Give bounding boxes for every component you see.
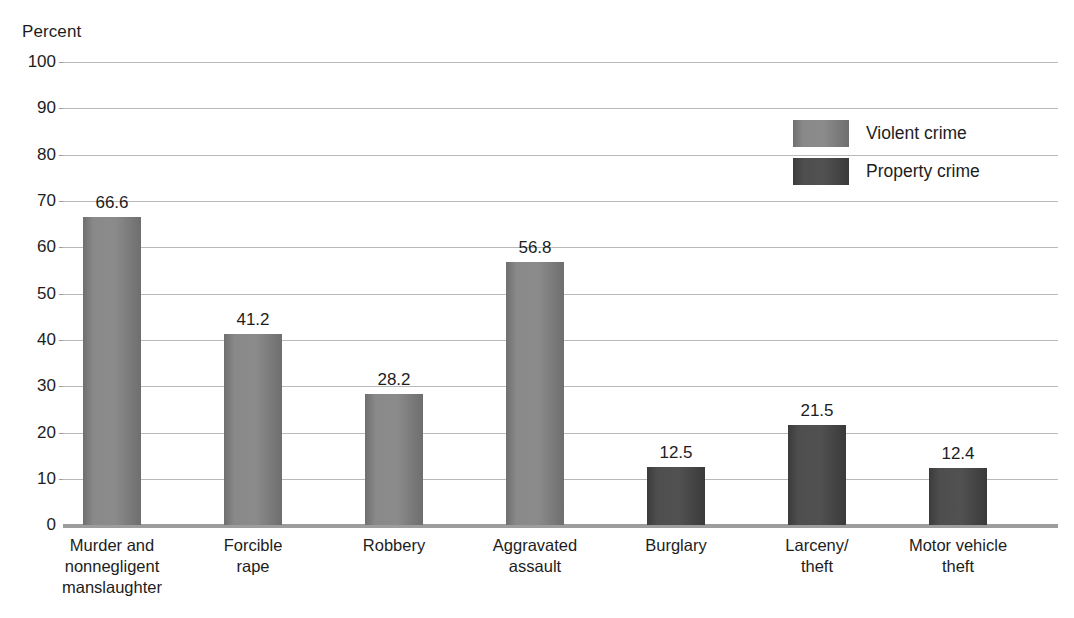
y-tick-label: 20 (0, 423, 56, 443)
y-tick-label: 50 (0, 284, 56, 304)
bar-burglary[interactable] (647, 467, 705, 525)
category-label-aggravated-assault: Aggravated assault (460, 535, 610, 577)
bar-chart: Percent 100 90 80 70 60 50 40 30 20 10 0 (0, 0, 1074, 618)
category-label-line: Forcible (178, 535, 328, 556)
y-tick-label: 60 (0, 237, 56, 257)
bar-value-label: 56.8 (475, 238, 595, 258)
bar-value-label: 66.6 (52, 193, 172, 213)
category-label-line: rape (178, 556, 328, 577)
legend-label: Property crime (866, 161, 980, 182)
bar-robbery[interactable] (365, 394, 423, 525)
category-label-murder-and-nonnegligent-manslaughter: Murder and nonnegligent manslaughter (37, 535, 187, 598)
category-label-line: Robbery (319, 535, 469, 556)
category-label-line: Burglary (601, 535, 751, 556)
y-tick-label: 0 (0, 515, 56, 535)
y-tick-label: 70 (0, 191, 56, 211)
category-label-robbery: Robbery (319, 535, 469, 556)
category-label-burglary: Burglary (601, 535, 751, 556)
category-label-line: nonnegligent (37, 556, 187, 577)
legend-item-property-crime[interactable]: Property crime (793, 156, 980, 186)
gridline-100 (63, 62, 1058, 63)
category-label-line: Motor vehicle (883, 535, 1033, 556)
category-label-line: Murder and (37, 535, 187, 556)
bar-motor-vehicle-theft[interactable] (929, 468, 987, 525)
legend-swatch-property-crime (793, 158, 849, 185)
bar-forcible-rape[interactable] (224, 334, 282, 525)
legend-item-violent-crime[interactable]: Violent crime (793, 118, 980, 148)
legend-label: Violent crime (866, 123, 967, 144)
bar-value-label: 12.5 (616, 443, 736, 463)
category-label-forcible-rape: Forcible rape (178, 535, 328, 577)
bar-larceny-theft[interactable] (788, 425, 846, 525)
category-label-line: theft (883, 556, 1033, 577)
category-label-line: manslaughter (37, 577, 187, 598)
bar-value-label: 21.5 (757, 401, 877, 421)
gridline-70 (63, 201, 1058, 202)
bar-value-label: 28.2 (334, 370, 454, 390)
category-label-motor-vehicle-theft: Motor vehicle theft (883, 535, 1033, 577)
y-axis-tick-labels: 100 90 80 70 60 50 40 30 20 10 0 (0, 0, 56, 618)
gridline-90 (63, 108, 1058, 109)
legend: Violent crime Property crime (793, 118, 980, 194)
bar-aggravated-assault[interactable] (506, 262, 564, 525)
y-tick-label: 100 (0, 52, 56, 72)
category-label-line: Larceny/ (742, 535, 892, 556)
bar-value-label: 41.2 (193, 310, 313, 330)
category-label-line: theft (742, 556, 892, 577)
y-tick-label: 40 (0, 330, 56, 350)
bar-murder-and-nonnegligent-manslaughter[interactable] (83, 217, 141, 525)
category-label-line: Aggravated (460, 535, 610, 556)
category-label-line: assault (460, 556, 610, 577)
y-tick-label: 80 (0, 145, 56, 165)
category-label-larceny-theft: Larceny/ theft (742, 535, 892, 577)
y-tick-label: 90 (0, 98, 56, 118)
legend-swatch-violent-crime (793, 120, 849, 147)
y-tick-label: 30 (0, 376, 56, 396)
y-tick-label: 10 (0, 469, 56, 489)
bar-value-label: 12.4 (898, 444, 1018, 464)
